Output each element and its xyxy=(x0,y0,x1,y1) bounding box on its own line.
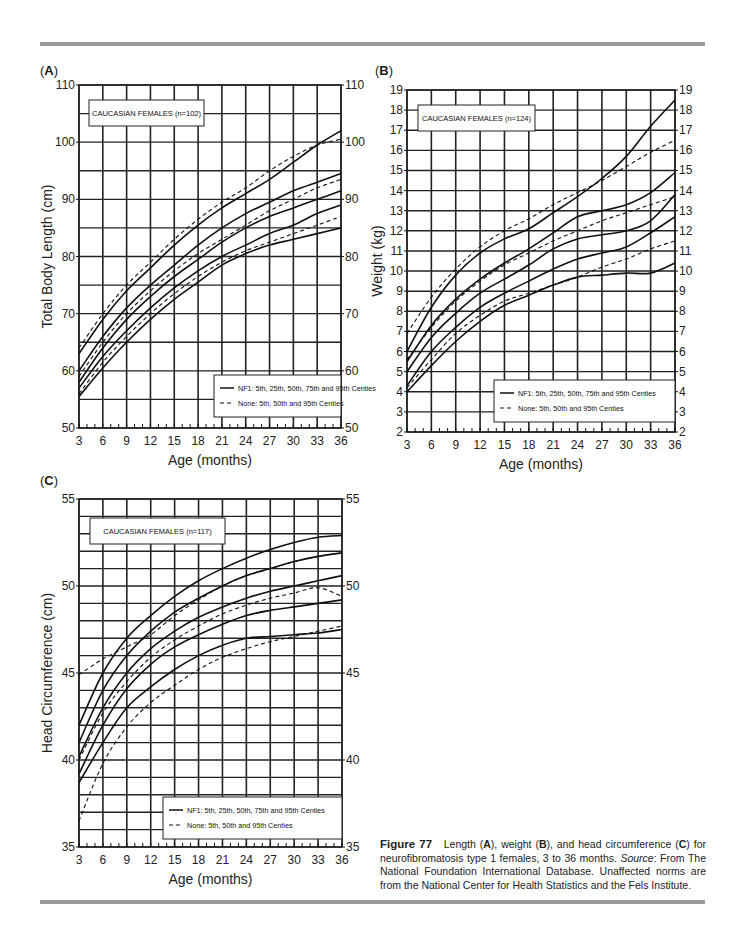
y-tick-label-right: 55 xyxy=(346,492,360,506)
y-tick-label-right: 40 xyxy=(346,753,360,767)
bottom-rule xyxy=(40,900,705,904)
x-axis-label: Age (months) xyxy=(499,456,583,472)
y-tick-label-left: 19 xyxy=(390,83,404,97)
y-tick-label-left: 8 xyxy=(396,304,403,318)
chart-c: CAUCASIAN FEMALES (n=117)NF1: 5th, 25th,… xyxy=(39,492,360,887)
x-tick-label: 6 xyxy=(100,853,107,867)
x-tick-label: 15 xyxy=(168,434,182,448)
y-tick-label-left: 18 xyxy=(390,103,404,117)
x-axis-label: Age (months) xyxy=(168,871,252,887)
x-tick-label: 15 xyxy=(168,853,182,867)
y-tick-label-right: 11 xyxy=(679,244,692,258)
chart-title: CAUCASIAN FEMALES (n=117) xyxy=(103,527,212,536)
y-tick-label-left: 100 xyxy=(55,135,75,149)
y-tick-label-right: 10 xyxy=(679,264,693,278)
chart-title: CAUCASIAN FEMALES (n=102) xyxy=(92,109,201,118)
y-tick-label-right: 4 xyxy=(679,385,686,399)
y-tick-label-right: 90 xyxy=(345,192,359,206)
y-tick-label-right: 3 xyxy=(679,405,686,419)
figure-charts: CAUCASIAN FEMALES (n=102)NF1: 5th, 25th,… xyxy=(0,0,738,928)
y-tick-label-left: 6 xyxy=(396,345,403,359)
x-axis-label: Age (months) xyxy=(168,452,252,468)
legend-box xyxy=(494,380,675,422)
x-tick-label: 24 xyxy=(571,438,585,452)
x-tick-label: 36 xyxy=(668,438,682,452)
y-tick-label-right: 16 xyxy=(679,143,693,157)
y-tick-label-right: 15 xyxy=(679,163,693,177)
x-tick-label: 15 xyxy=(498,438,512,452)
y-tick-label-left: 90 xyxy=(62,192,76,206)
legend-label-none: None: 5th, 50th and 95th Centies xyxy=(518,404,624,413)
x-tick-label: 12 xyxy=(144,434,158,448)
x-tick-label: 30 xyxy=(620,438,634,452)
x-tick-label: 9 xyxy=(452,438,459,452)
y-tick-label-left: 14 xyxy=(390,184,404,198)
legend-box xyxy=(163,797,342,839)
x-tick-label: 27 xyxy=(595,438,609,452)
y-tick-label-right: 7 xyxy=(679,324,686,338)
y-tick-label-left: 80 xyxy=(62,250,76,264)
x-tick-label: 9 xyxy=(123,434,130,448)
y-tick-label-left: 55 xyxy=(62,492,76,506)
y-tick-label-left: 16 xyxy=(390,143,404,157)
y-tick-label-right: 8 xyxy=(679,304,686,318)
legend-label-none: None: 5th, 50th and 95th Centies xyxy=(238,399,344,408)
y-tick-label-right: 5 xyxy=(679,365,686,379)
y-tick-label-left: 5 xyxy=(396,365,403,379)
y-tick-label-left: 15 xyxy=(390,163,404,177)
x-tick-label: 30 xyxy=(288,853,302,867)
legend-label-nf1: NF1: 5th, 25th, 50th, 75th and 95th Cent… xyxy=(238,384,376,393)
x-tick-label: 3 xyxy=(76,434,83,448)
y-tick-label-left: 12 xyxy=(390,224,404,238)
y-tick-label-left: 4 xyxy=(396,385,403,399)
x-tick-label: 12 xyxy=(144,853,158,867)
y-tick-label-left: 60 xyxy=(62,364,76,378)
x-tick-label: 24 xyxy=(240,853,254,867)
y-tick-label-left: 13 xyxy=(390,204,404,218)
y-tick-label-right: 50 xyxy=(345,421,359,435)
y-tick-label-right: 50 xyxy=(346,579,360,593)
x-tick-label: 36 xyxy=(335,853,349,867)
y-tick-label-left: 2 xyxy=(396,425,403,439)
y-tick-label-left: 11 xyxy=(391,244,404,258)
y-axis-label: Head Circumference (cm) xyxy=(39,593,55,753)
y-tick-label-right: 14 xyxy=(679,184,693,198)
y-tick-label-right: 19 xyxy=(679,83,693,97)
x-tick-label: 9 xyxy=(123,853,130,867)
x-tick-label: 18 xyxy=(522,438,536,452)
y-tick-label-left: 9 xyxy=(396,284,403,298)
y-tick-label-left: 50 xyxy=(62,579,76,593)
x-tick-label: 18 xyxy=(192,853,206,867)
legend-box xyxy=(214,375,341,417)
x-tick-label: 3 xyxy=(76,853,83,867)
figure-number: Figure 77 xyxy=(380,838,432,850)
x-tick-label: 6 xyxy=(428,438,435,452)
x-tick-label: 12 xyxy=(473,438,487,452)
legend-label-none: None: 5th, 50th and 95th Centies xyxy=(187,821,293,830)
y-tick-label-right: 13 xyxy=(679,204,693,218)
y-tick-label-right: 2 xyxy=(679,425,686,439)
legend-label-nf1: NF1: 5th, 25th, 50th, 75th and 95th Cent… xyxy=(187,806,325,815)
y-tick-label-right: 12 xyxy=(679,224,693,238)
y-tick-label-right: 6 xyxy=(679,345,686,359)
figure-caption: Figure 77 Length (A), weight (B), and he… xyxy=(380,838,706,892)
x-tick-label: 27 xyxy=(263,434,277,448)
y-tick-label-left: 3 xyxy=(396,405,403,419)
x-tick-label: 33 xyxy=(311,434,325,448)
y-tick-label-left: 110 xyxy=(56,78,75,92)
x-tick-label: 21 xyxy=(215,434,229,448)
y-tick-label-right: 35 xyxy=(346,840,360,854)
y-tick-label-left: 45 xyxy=(62,666,76,680)
x-tick-label: 21 xyxy=(547,438,561,452)
y-tick-label-right: 60 xyxy=(345,364,359,378)
x-tick-label: 18 xyxy=(191,434,205,448)
x-tick-label: 27 xyxy=(264,853,278,867)
y-axis-label: Weight (kg) xyxy=(369,225,385,296)
x-tick-label: 24 xyxy=(239,434,253,448)
y-tick-label-left: 10 xyxy=(390,264,404,278)
y-tick-label-left: 40 xyxy=(62,753,76,767)
y-tick-label-right: 17 xyxy=(679,123,693,137)
y-tick-label-right: 110 xyxy=(345,78,364,92)
y-tick-label-left: 50 xyxy=(62,421,76,435)
chart-b: CAUCASIAN FEMALES (n=124)NF1: 5th, 25th,… xyxy=(369,83,693,472)
